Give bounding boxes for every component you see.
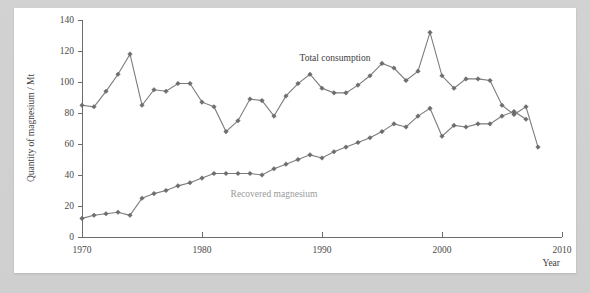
data-point-marker bbox=[476, 77, 481, 82]
data-point-marker bbox=[344, 145, 349, 150]
y-tick-label: 80 bbox=[65, 108, 75, 118]
y-axis-ticks: 020406080100120140 bbox=[60, 15, 82, 242]
data-point-marker bbox=[164, 188, 169, 193]
data-point-marker bbox=[356, 140, 361, 145]
series-2 bbox=[80, 106, 529, 221]
series-line bbox=[82, 108, 526, 218]
line-chart-plot: 020406080100120140 19701980199020002010 … bbox=[14, 8, 576, 273]
data-point-marker bbox=[488, 78, 493, 83]
x-tick-label: 1980 bbox=[193, 245, 212, 255]
y-tick-label: 0 bbox=[69, 232, 74, 242]
data-point-marker bbox=[272, 167, 277, 172]
x-tick-label: 2000 bbox=[433, 245, 452, 255]
series-line bbox=[82, 32, 538, 147]
y-tick-label: 140 bbox=[60, 15, 75, 25]
data-point-marker bbox=[464, 125, 469, 130]
data-point-marker bbox=[536, 145, 541, 150]
data-point-marker bbox=[152, 191, 157, 196]
series-1 bbox=[80, 30, 541, 149]
data-point-marker bbox=[296, 157, 301, 162]
data-point-marker bbox=[212, 105, 217, 110]
data-point-marker bbox=[284, 162, 289, 167]
x-axis-title: Year bbox=[542, 258, 560, 268]
annotation-recovered-magnesium: Recovered magnesium bbox=[231, 189, 318, 199]
data-point-marker bbox=[332, 149, 337, 154]
y-tick-label: 120 bbox=[60, 46, 75, 56]
data-point-marker bbox=[200, 176, 205, 181]
data-point-marker bbox=[188, 180, 193, 185]
x-axis-ticks: 19701980199020002010 bbox=[73, 232, 572, 255]
data-point-marker bbox=[80, 103, 85, 108]
x-tick-label: 1970 bbox=[73, 245, 92, 255]
chart-card: 020406080100120140 19701980199020002010 … bbox=[14, 8, 576, 273]
data-point-marker bbox=[368, 136, 373, 141]
y-axis-title: Quantity of magnesium / Mt bbox=[26, 74, 36, 183]
y-tick-label: 60 bbox=[65, 139, 75, 149]
data-point-marker bbox=[80, 216, 85, 221]
data-point-marker bbox=[104, 211, 109, 216]
figure-root: 020406080100120140 19701980199020002010 … bbox=[0, 0, 590, 293]
data-point-marker bbox=[116, 210, 121, 215]
data-point-marker bbox=[236, 171, 241, 176]
data-point-marker bbox=[212, 171, 217, 176]
data-point-marker bbox=[260, 173, 265, 178]
x-tick-label: 2010 bbox=[553, 245, 572, 255]
data-point-marker bbox=[248, 171, 253, 176]
data-point-marker bbox=[308, 153, 313, 158]
data-point-marker bbox=[128, 52, 133, 57]
data-point-marker bbox=[92, 213, 97, 218]
data-point-marker bbox=[428, 30, 433, 35]
x-tick-label: 1990 bbox=[313, 245, 332, 255]
data-point-marker bbox=[224, 171, 229, 176]
data-point-marker bbox=[320, 156, 325, 161]
data-point-marker bbox=[176, 184, 181, 189]
data-point-marker bbox=[476, 122, 481, 127]
y-tick-label: 40 bbox=[65, 170, 75, 180]
annotation-total-consumption: Total consumption bbox=[300, 53, 371, 63]
data-point-marker bbox=[332, 91, 337, 96]
y-tick-label: 100 bbox=[60, 77, 75, 87]
y-tick-label: 20 bbox=[65, 201, 75, 211]
data-point-marker bbox=[248, 97, 253, 102]
